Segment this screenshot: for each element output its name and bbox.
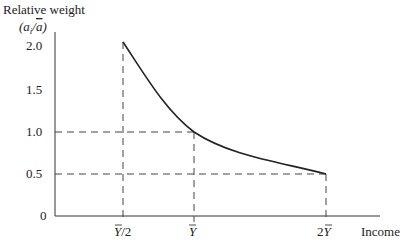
svg-text:Y/2: Y/2 bbox=[114, 224, 131, 239]
x-tick-ybar: Y bbox=[189, 224, 198, 239]
y-tick-2.0: 2.0 bbox=[26, 38, 42, 53]
svg-text:2Y: 2Y bbox=[317, 224, 333, 239]
y-tick-0: 0 bbox=[40, 208, 47, 223]
x-axis-title: Income bbox=[361, 224, 400, 239]
relative-weight-chart: Relative weight (ai/a) 2.0 1.5 1.0 0.5 0… bbox=[0, 0, 415, 243]
svg-text:Y: Y bbox=[189, 224, 198, 239]
y-axis-title: Relative weight bbox=[3, 2, 85, 17]
y-tick-1.5: 1.5 bbox=[26, 82, 42, 97]
weight-curve bbox=[123, 42, 326, 174]
x-tick-two-ybar: 2Y bbox=[317, 224, 333, 239]
reference-lines bbox=[55, 42, 326, 222]
y-axis-subtitle: (ai/a) bbox=[19, 19, 47, 36]
y-tick-1.0: 1.0 bbox=[26, 124, 42, 139]
x-tick-half-ybar: Y/2 bbox=[114, 224, 131, 239]
y-tick-0.5: 0.5 bbox=[26, 166, 42, 181]
